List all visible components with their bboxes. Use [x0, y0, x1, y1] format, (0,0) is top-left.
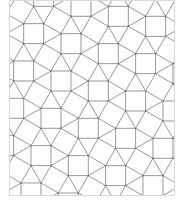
tiling-vertex	[80, 33, 82, 35]
tiling-vertex	[60, 53, 62, 55]
tiling-vertex	[115, 128, 117, 130]
tiling-vertex	[98, 43, 100, 45]
tiling-vertex	[40, 128, 42, 130]
tiling-vertex	[88, 80, 90, 82]
tiling-vertex	[88, 155, 90, 157]
tiling-figure	[0, 0, 190, 215]
tiling-vertex	[135, 73, 137, 75]
tiling-vertex	[78, 118, 80, 120]
tiling-vertex	[155, 53, 157, 55]
tiling-vertex	[13, 80, 15, 82]
tiling-vertex	[13, 60, 15, 62]
tiling-vertex	[30, 145, 32, 147]
tiling-vertex	[90, 16, 92, 18]
tiling-vertex	[135, 128, 137, 130]
tiling-vertex	[145, 16, 147, 18]
tiling-vertex	[80, 53, 82, 55]
tiling-vertex	[98, 138, 100, 140]
tiling-vertex	[172, 83, 174, 85]
tiling-vertex	[13, 135, 15, 137]
tiling-vertex	[60, 128, 62, 130]
tiling-vertex	[88, 100, 90, 102]
tiling-vertex	[128, 6, 130, 8]
tiling-vertex	[125, 165, 127, 167]
tiling-vertex	[125, 110, 127, 112]
tiling-vertex	[145, 36, 147, 38]
tiling-vertex	[128, 26, 130, 28]
tiling-vertex	[43, 23, 45, 25]
tiling-vertex	[152, 158, 154, 160]
tiling-vertex	[135, 53, 137, 55]
tiling-vertex	[68, 175, 70, 177]
tiling-vertex	[152, 138, 154, 140]
tiling-vertex	[68, 155, 70, 157]
tiling-vertex	[78, 192, 80, 194]
tiling-vertex	[108, 6, 110, 8]
tiling-vertex	[105, 165, 107, 167]
tiling-vertex	[40, 108, 42, 110]
tiling-vertex	[30, 165, 32, 167]
tiling-vertex	[172, 138, 174, 140]
tiling-vertex	[145, 90, 147, 92]
tiling-vertex	[155, 73, 157, 75]
tiling-vertex	[13, 155, 15, 157]
tiling-vertex	[88, 175, 90, 177]
tiling-vertex	[70, 90, 72, 92]
tiling-vertex	[60, 33, 62, 35]
tiling-vertex	[108, 100, 110, 102]
tiling-vertex	[118, 63, 120, 65]
tiling-vertex	[43, 43, 45, 45]
tiling-vertex	[33, 60, 35, 62]
tiling-vertex	[172, 63, 174, 65]
tiling-vertex	[70, 70, 72, 72]
tiling-vertex	[125, 185, 127, 187]
tiling-vertex	[33, 80, 35, 82]
tiling-vertex	[118, 43, 120, 45]
tiling-vertex	[125, 90, 127, 92]
tiling-vertex	[58, 192, 60, 194]
tiling-vertex	[53, 6, 55, 8]
tiling-vertex	[20, 182, 22, 184]
tiling-vertex	[108, 26, 110, 28]
tiling-vertex	[108, 80, 110, 82]
tiling-vertex	[50, 90, 52, 92]
tiling-vertex	[50, 70, 52, 72]
tiling-vertex	[60, 108, 62, 110]
tiling-vertex	[172, 158, 174, 160]
tiling-vertex	[165, 36, 167, 38]
tiling-vertex	[23, 118, 25, 120]
tiling-vertex	[145, 110, 147, 112]
tiling-vertex	[162, 100, 164, 102]
tiling-vertex	[23, 23, 25, 25]
tiling-vertex	[162, 175, 164, 177]
tiling-vertex	[78, 138, 80, 140]
tiling-vertex	[165, 16, 167, 18]
tiling-vertex	[70, 16, 72, 18]
tiling-vertex	[50, 165, 52, 167]
tiling-vertex	[98, 118, 100, 120]
tiling-vertex	[162, 120, 164, 122]
tiling-vertex	[98, 63, 100, 65]
tiling-vertex	[40, 182, 42, 184]
tiling-vertex	[105, 185, 107, 187]
tiling-vertex	[142, 175, 144, 177]
tiling-vertex	[115, 148, 117, 150]
tiling-vertex	[50, 145, 52, 147]
tiling-vertex	[135, 148, 137, 150]
tiling-vertex	[33, 6, 35, 8]
tiling-vertex	[23, 43, 25, 45]
tiling-vertex	[23, 98, 25, 100]
